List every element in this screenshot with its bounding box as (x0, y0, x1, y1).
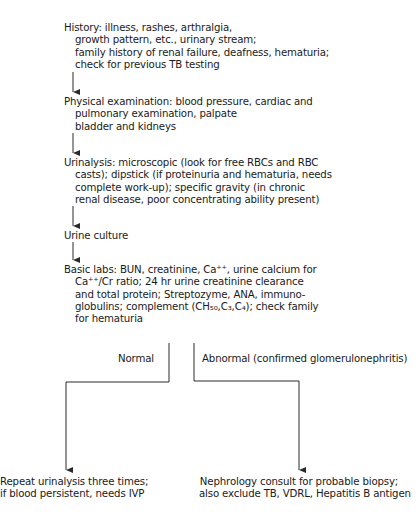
step-line: renal disease, poor concentrating abilit… (64, 194, 332, 206)
step-line: for hematuria (64, 313, 319, 325)
outcome-abnormal: Nephrology consult for probable biopsy; … (199, 476, 399, 501)
step-line: Basic labs: BUN, creatinine, Ca⁺⁺, urine… (64, 264, 319, 276)
branch-label-normal: Normal (118, 353, 154, 365)
step-line: family history of renal failure, deafnes… (64, 47, 329, 59)
step-line: pulmonary examination, palpate (64, 108, 313, 120)
step-line: and total protein; Streptozyme, ANA, imm… (64, 289, 319, 301)
step-line: Physical examination: blood pressure, ca… (64, 96, 313, 108)
step-line: complete work-up); specific gravity (in … (64, 182, 332, 194)
step-line: History: illness, rashes, arthralgia, (64, 22, 329, 34)
step-line: globulins; complement (CH₅₀,C₃,C₄); chec… (64, 301, 319, 313)
step-urinalysis: Urinalysis: microscopic (look for free R… (64, 157, 332, 206)
branch-label-abnormal: Abnormal (confirmed glomerulonephritis) (202, 353, 407, 365)
step-line: bladder and kidneys (64, 121, 313, 133)
step-basic-labs: Basic labs: BUN, creatinine, Ca⁺⁺, urine… (64, 264, 319, 325)
step-line: growth pattern, etc., urinary stream; (64, 34, 329, 46)
step-line: check for previous TB testing (64, 59, 329, 71)
step-line: casts); dipstick (if proteinuria and hem… (64, 169, 332, 181)
flowchart-connectors (0, 0, 417, 513)
outcome-line: Repeat urinalysis three times; (0, 476, 132, 488)
step-line: Urinalysis: microscopic (look for free R… (64, 157, 332, 169)
step-physical-exam: Physical examination: blood pressure, ca… (64, 96, 313, 133)
outcome-line: Nephrology consult for probable biopsy; (199, 476, 399, 488)
step-history: History: illness, rashes, arthralgia, gr… (64, 22, 329, 71)
outcome-line: if blood persistent, needs IVP (0, 488, 132, 500)
step-line: Urine culture (64, 230, 128, 242)
step-urine-culture: Urine culture (64, 230, 128, 242)
outcome-normal: Repeat urinalysis three times; if blood … (0, 476, 132, 501)
step-line: Ca⁺⁺/Cr ratio; 24 hr urine creatinine cl… (64, 276, 319, 288)
outcome-line: also exclude TB, VDRL, Hepatitis B antig… (199, 488, 399, 500)
